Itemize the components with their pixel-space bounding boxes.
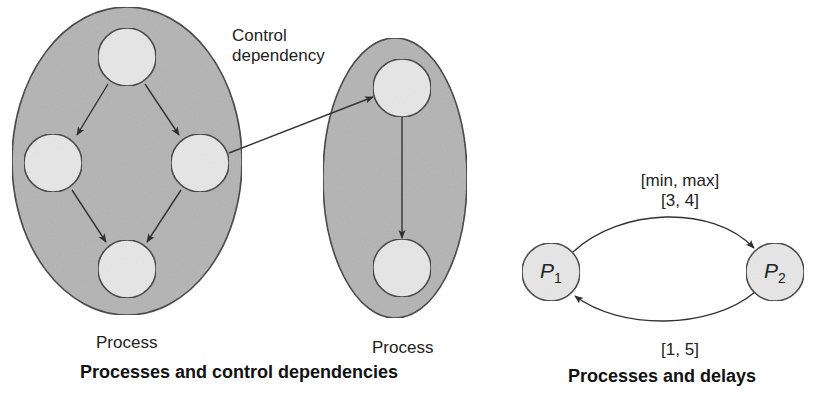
node-p2-label: P2 [764,259,786,286]
process-2-label: Process [372,338,433,358]
edge-p2-p1-label: [1, 5] [620,340,740,360]
node-bottom [98,240,156,298]
node-p1-subscript: 1 [554,270,562,286]
node-p2-top [373,59,431,117]
control-dependency-label-line2: dependency [232,46,325,66]
node-right [171,134,229,192]
edge-p2-p1 [575,292,755,321]
edge-header-label: [min, max] [620,171,740,191]
delays-graph [522,217,804,321]
node-p2-name: P [764,259,778,282]
control-dependency-label: Control dependency [232,26,325,65]
node-p2-subscript: 2 [778,270,786,286]
node-top [98,28,156,86]
process-2 [323,38,467,318]
process-1-label: Process [96,333,157,353]
node-left [24,134,82,192]
edge-p1-p2 [573,217,754,252]
left-panel-title: Processes and control dependencies [80,362,398,383]
process-1 [12,7,242,315]
control-dependency-label-line1: Control [232,26,325,46]
edge-p1-p2-label: [3, 4] [620,191,740,211]
right-panel-title: Processes and delays [568,366,756,387]
node-p2-bottom [373,239,431,297]
node-p1-name: P [540,259,554,282]
node-p1-label: P1 [540,259,562,286]
